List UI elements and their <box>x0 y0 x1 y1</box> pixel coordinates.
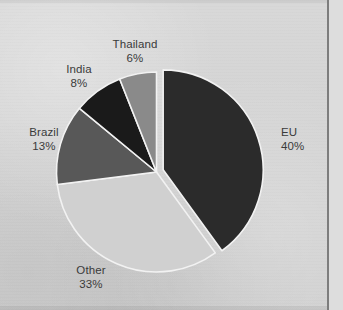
slice-label-eu-name: EU <box>281 126 327 140</box>
slice-label-india-name: India <box>49 63 109 77</box>
slice-label-eu: EU 40% <box>281 126 327 153</box>
slice-label-thailand: Thailand 6% <box>97 38 173 65</box>
slice-label-brazil-name: Brazil <box>13 126 75 140</box>
slice-label-brazil: Brazil 13% <box>13 126 75 153</box>
slice-label-india-value: 8% <box>49 77 109 91</box>
slice-label-eu-value: 40% <box>281 140 327 154</box>
slice-label-other-value: 33% <box>60 278 122 292</box>
slice-label-other: Other 33% <box>60 264 122 291</box>
slice-label-thailand-name: Thailand <box>97 38 173 52</box>
page-outer-margin <box>329 0 343 310</box>
slice-label-other-name: Other <box>60 264 122 278</box>
pie-slices-group <box>57 70 264 272</box>
slice-label-brazil-value: 13% <box>13 140 75 154</box>
slice-label-india: India 8% <box>49 63 109 90</box>
pie-chart-page: EU 40% Other 33% Brazil 13% India 8% Tha… <box>0 0 343 310</box>
slice-label-thailand-value: 6% <box>97 52 173 66</box>
